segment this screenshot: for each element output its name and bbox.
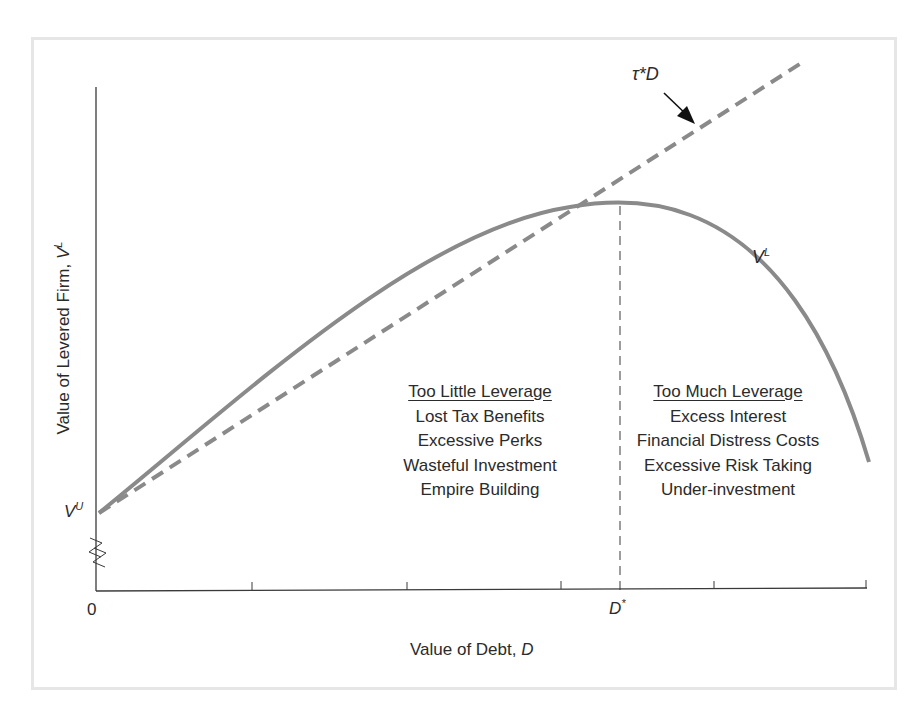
list-item: Excessive Risk Taking <box>628 454 828 479</box>
list-item: Lost Tax Benefits <box>380 405 580 430</box>
arrow-icon <box>664 93 695 124</box>
plot-area <box>0 0 921 721</box>
list-item: Financial Distress Costs <box>628 429 828 454</box>
too-little-leverage-box: Too Little Leverage Lost Tax Benefits Ex… <box>380 380 580 503</box>
x-axis-label: Value of Debt, D <box>410 640 533 660</box>
list-item: Excessive Perks <box>380 429 580 454</box>
vl-label: VL <box>752 246 770 268</box>
list-item: Excess Interest <box>628 405 828 430</box>
y-axis-label: Value of Levered Firm, VL <box>52 242 74 435</box>
axis-break-icon <box>89 538 106 567</box>
list-item: Under-investment <box>628 478 828 503</box>
list-item: Empire Building <box>380 478 580 503</box>
vu-label: VU <box>64 500 83 522</box>
dstar-label: D* <box>609 597 626 619</box>
x-axis <box>96 588 867 591</box>
tax-shield-label: τ*D <box>632 64 659 85</box>
too-little-leverage-heading: Too Little Leverage <box>380 380 580 405</box>
list-item: Wasteful Investment <box>380 454 580 479</box>
origin-label: 0 <box>87 600 96 620</box>
too-much-leverage-heading: Too Much Leverage <box>628 380 828 405</box>
too-much-leverage-box: Too Much Leverage Excess Interest Financ… <box>628 380 828 503</box>
